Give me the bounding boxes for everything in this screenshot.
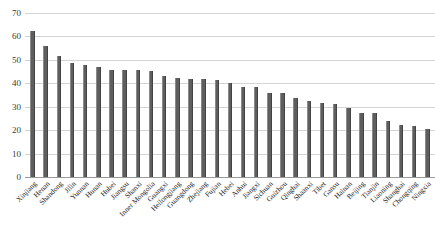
bar-slot — [65, 13, 78, 177]
bar-slot — [381, 13, 394, 177]
bar — [43, 46, 48, 177]
bar — [109, 70, 114, 177]
bar-chart: 010203040506070 XinjiangHenanShandongJil… — [0, 0, 435, 238]
bar — [162, 76, 167, 177]
bar-slot — [223, 13, 236, 177]
bar — [267, 93, 272, 177]
bar — [175, 78, 180, 177]
bar-slot — [26, 13, 39, 177]
bar-slot — [329, 13, 342, 177]
bar — [96, 67, 101, 177]
bar — [425, 129, 430, 177]
bar-slot — [368, 13, 381, 177]
bar-slot — [105, 13, 118, 177]
bar-slot — [394, 13, 407, 177]
bar-slot — [237, 13, 250, 177]
bar-slot — [197, 13, 210, 177]
bar-slot — [315, 13, 328, 177]
bar-slot — [131, 13, 144, 177]
bar — [346, 108, 351, 177]
bar-slot — [355, 13, 368, 177]
y-axis-tick-label: 70 — [12, 9, 21, 18]
y-axis-tick-label: 20 — [12, 126, 21, 135]
bar — [307, 101, 312, 177]
y-axis-tick-label: 0 — [17, 173, 22, 182]
bar — [70, 63, 75, 177]
plot-area — [25, 13, 435, 177]
bar — [57, 56, 62, 177]
bar-slot — [171, 13, 184, 177]
bar-slot — [158, 13, 171, 177]
bar-slot — [92, 13, 105, 177]
bar-slot — [144, 13, 157, 177]
bar — [201, 79, 206, 177]
bar-slot — [210, 13, 223, 177]
bar-slot — [79, 13, 92, 177]
y-axis-tick-label: 50 — [12, 55, 21, 64]
x-axis: XinjiangHenanShandongJilinYunnanHunanHub… — [25, 178, 435, 238]
bar — [254, 87, 259, 177]
bar — [386, 121, 391, 177]
bar-slot — [52, 13, 65, 177]
bar-slot — [184, 13, 197, 177]
bar-slot — [250, 13, 263, 177]
bar — [149, 71, 154, 177]
bar — [280, 93, 285, 177]
bar — [188, 79, 193, 177]
bar-slot — [289, 13, 302, 177]
bar-slot — [118, 13, 131, 177]
y-axis-tick-label: 40 — [12, 79, 21, 88]
bar — [399, 125, 404, 177]
bar-series — [25, 13, 435, 177]
bar-slot — [302, 13, 315, 177]
bar — [333, 104, 338, 177]
bar — [412, 126, 417, 177]
bar — [122, 70, 127, 177]
bar — [136, 70, 141, 177]
y-axis-tick-label: 10 — [12, 149, 21, 158]
bar-slot — [39, 13, 52, 177]
bar-slot — [263, 13, 276, 177]
bar-slot — [421, 13, 434, 177]
bar — [293, 98, 298, 177]
y-axis-tick-label: 30 — [12, 102, 21, 111]
y-axis-tick-label: 60 — [12, 32, 21, 41]
bar — [359, 113, 364, 177]
bar — [83, 65, 88, 177]
bar — [228, 83, 233, 177]
bar-slot — [408, 13, 421, 177]
bar-slot — [276, 13, 289, 177]
bar — [30, 31, 35, 177]
bar — [372, 113, 377, 177]
bar — [215, 80, 220, 177]
x-axis-tick: Ningxia — [421, 178, 434, 238]
bar-slot — [342, 13, 355, 177]
bar — [320, 103, 325, 178]
bar — [241, 87, 246, 177]
